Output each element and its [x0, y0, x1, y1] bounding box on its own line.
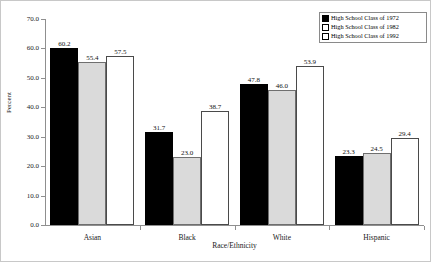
bar-value-label: 57.5 [114, 48, 126, 56]
y-tick-label: 0.0 [30, 221, 39, 229]
y-axis-line [45, 19, 46, 226]
bar-value-label: 53.9 [304, 58, 316, 66]
y-tick-mark [41, 137, 45, 138]
bar-group: 60.255.457.5 [50, 19, 134, 225]
y-axis-title: Percent [5, 92, 13, 113]
bar-value-label: 29.4 [399, 130, 411, 138]
bar-chart-figure: High School Class of 1972 High School Cl… [0, 0, 431, 262]
x-tick-mark [329, 226, 330, 230]
x-tick-mark [235, 226, 236, 230]
bar: 29.4 [391, 138, 419, 225]
bar: 57.5 [106, 56, 134, 225]
y-tick-mark [41, 48, 45, 49]
bar-group: 23.324.529.4 [335, 19, 419, 225]
bar-value-label: 47.8 [248, 76, 260, 84]
bar-value-label: 31.7 [153, 124, 165, 132]
bar-group: 31.723.038.7 [145, 19, 229, 225]
bar: 46.0 [268, 90, 296, 225]
y-tick-mark [41, 166, 45, 167]
x-axis-title: Race/Ethnicity [45, 241, 424, 250]
y-tick-label: 20.0 [27, 162, 39, 170]
bar: 23.0 [173, 157, 201, 225]
y-tick-label: 10.0 [27, 192, 39, 200]
bar: 24.5 [363, 153, 391, 225]
y-tick-label: 70.0 [27, 15, 39, 23]
y-tick-label: 40.0 [27, 103, 39, 111]
y-tick-mark [41, 196, 45, 197]
bar: 31.7 [145, 132, 173, 225]
bar: 60.2 [50, 48, 78, 225]
bar: 38.7 [201, 111, 229, 225]
bar: 23.3 [335, 156, 363, 225]
bar-value-label: 24.5 [371, 145, 383, 153]
y-tick-mark [41, 225, 45, 226]
y-tick-mark [41, 107, 45, 108]
bar-value-label: 55.4 [86, 54, 98, 62]
bar-value-label: 23.3 [343, 148, 355, 156]
bar: 47.8 [240, 84, 268, 225]
bar-value-label: 60.2 [58, 40, 70, 48]
y-tick-mark [41, 78, 45, 79]
x-tick-mark [140, 226, 141, 230]
bar-value-label: 38.7 [209, 103, 221, 111]
bar: 53.9 [296, 66, 324, 225]
bar: 55.4 [78, 62, 106, 225]
bar-value-label: 46.0 [276, 82, 288, 90]
x-tick-mark [424, 226, 425, 230]
y-tick-label: 50.0 [27, 74, 39, 82]
bar-group: 47.846.053.9 [240, 19, 324, 225]
y-tick-label: 60.0 [27, 44, 39, 52]
y-tick-mark [41, 19, 45, 20]
bar-value-label: 23.0 [181, 149, 193, 157]
y-tick-label: 30.0 [27, 133, 39, 141]
plot-area: 0.010.020.030.040.050.060.070.0 60.255.4… [45, 19, 424, 226]
